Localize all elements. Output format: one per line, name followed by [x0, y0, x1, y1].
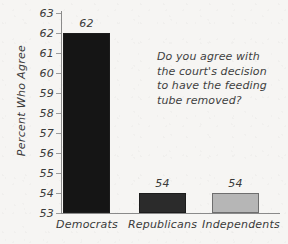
y-tick-label: 62: [18, 27, 54, 40]
x-tick-label-republicans: Republicans: [121, 218, 204, 231]
y-tick-label: 57: [18, 127, 54, 140]
bar-value-republicans: 54: [139, 177, 186, 190]
y-tick-label: 56: [18, 147, 54, 160]
y-tick-label: 63: [18, 7, 54, 20]
bar-value-independents: 54: [212, 177, 259, 190]
annotation-line: Do you agree with: [157, 50, 285, 65]
y-tick-label: 55: [18, 167, 54, 180]
bar-democrats[interactable]: [63, 33, 110, 213]
y-axis-tick-labels: 63 62 61 60 59 58 57 56 55 54 53: [14, 0, 54, 244]
x-tick-label-democrats: Democrats: [48, 218, 126, 231]
y-tick-label: 60: [18, 67, 54, 80]
annotation-line: tube removed?: [157, 94, 285, 109]
bar-republicans[interactable]: [139, 193, 186, 213]
annotation-line: the court's decision: [157, 65, 285, 80]
y-axis-line: [61, 11, 62, 214]
y-tick-label: 59: [18, 87, 54, 100]
bar-chart: Percent Who Agree 63 62 61 60 59 58 57 5…: [0, 0, 288, 244]
chart-annotation: Do you agree with the court's decision t…: [157, 50, 285, 108]
annotation-line: to have the feeding: [157, 79, 285, 94]
bar-independents[interactable]: [212, 193, 259, 213]
x-axis-line: [61, 213, 280, 214]
y-tick-label: 54: [18, 187, 54, 200]
y-tick-label: 61: [18, 47, 54, 60]
bar-value-democrats: 62: [63, 17, 110, 30]
y-tick-label: 58: [18, 107, 54, 120]
x-tick-label-independents: Independents: [197, 218, 285, 231]
